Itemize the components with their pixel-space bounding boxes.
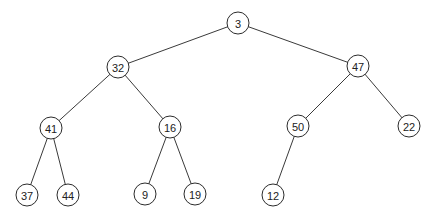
tree-node-50: 50	[287, 115, 309, 137]
edge-layer	[27, 23, 409, 195]
tree-node-41: 41	[40, 117, 62, 139]
tree-node-37: 37	[16, 184, 38, 206]
node-layer: 3324741165022374491912	[16, 12, 420, 206]
tree-node-19: 19	[184, 183, 206, 205]
tree-node-12: 12	[262, 184, 284, 206]
node-label: 47	[352, 61, 364, 73]
edge-47-22	[358, 66, 409, 126]
tree-node-44: 44	[57, 184, 79, 206]
node-label: 41	[45, 123, 57, 135]
tree-node-9: 9	[134, 183, 156, 205]
node-label: 22	[403, 121, 415, 133]
tree-diagram: 3324741165022374491912	[0, 0, 436, 224]
tree-node-47: 47	[347, 55, 369, 77]
node-label: 3	[235, 18, 241, 30]
node-label: 16	[164, 122, 176, 134]
edge-32-41	[51, 67, 118, 128]
edge-3-32	[118, 23, 238, 67]
node-label: 9	[142, 189, 148, 201]
tree-node-3: 3	[227, 12, 249, 34]
tree-node-32: 32	[107, 56, 129, 78]
edge-32-16	[118, 67, 170, 127]
node-label: 44	[62, 190, 74, 202]
node-label: 19	[189, 189, 201, 201]
edge-47-50	[298, 66, 358, 126]
edge-3-47	[238, 23, 358, 66]
node-label: 12	[267, 190, 279, 202]
tree-node-16: 16	[159, 116, 181, 138]
tree-node-22: 22	[398, 115, 420, 137]
node-label: 37	[21, 190, 33, 202]
node-label: 50	[292, 121, 304, 133]
node-label: 32	[112, 62, 124, 74]
